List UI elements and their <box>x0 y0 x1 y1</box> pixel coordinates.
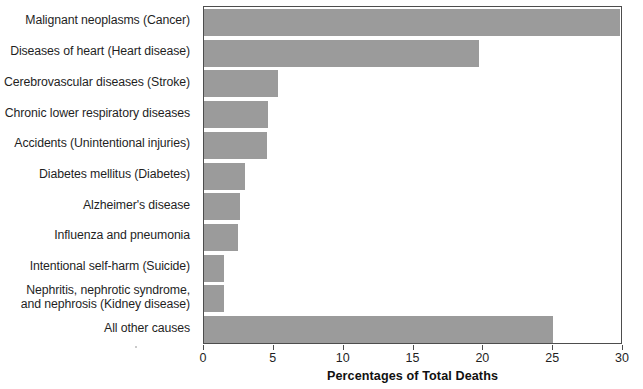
bar <box>204 193 240 220</box>
category-label: Influenza and pneumonia <box>54 228 190 242</box>
bar <box>204 101 268 128</box>
x-tick-label: 0 <box>200 351 207 365</box>
stray-mark <box>135 346 137 348</box>
category-label: Alzheimer's disease <box>83 198 190 212</box>
bar <box>204 132 267 159</box>
x-tick-label: 25 <box>545 351 559 365</box>
category-label: Cerebrovascular diseases (Stroke) <box>4 75 190 89</box>
x-tick-label: 15 <box>406 351 420 365</box>
x-tick-mark <box>273 345 274 350</box>
x-tick-label: 30 <box>615 351 629 365</box>
x-tick-mark <box>552 345 553 350</box>
bar <box>204 316 553 343</box>
category-label: Diseases of heart (Heart disease) <box>10 44 190 58</box>
bars-container <box>204 7 621 343</box>
x-tick-label: 5 <box>269 351 276 365</box>
x-tick-mark <box>343 345 344 350</box>
x-tick-mark <box>482 345 483 350</box>
category-label: Nephritis, nephrotic syndrome, and nephr… <box>21 283 190 311</box>
bar <box>204 70 278 97</box>
category-label: Diabetes mellitus (Diabetes) <box>39 167 190 181</box>
bar <box>204 285 224 312</box>
category-label: Malignant neoplasms (Cancer) <box>25 13 190 27</box>
bar <box>204 224 238 251</box>
x-tick-mark <box>413 345 414 350</box>
category-label: Accidents (Unintentional injuries) <box>14 136 190 150</box>
bar <box>204 163 245 190</box>
category-label: All other causes <box>104 321 190 335</box>
category-label: Chronic lower respiratory diseases <box>5 106 190 120</box>
bar-chart: Malignant neoplasms (Cancer)Diseases of … <box>0 0 643 389</box>
category-label-column: Malignant neoplasms (Cancer)Diseases of … <box>0 6 196 344</box>
x-tick-mark <box>203 345 204 350</box>
x-tick-label: 10 <box>336 351 350 365</box>
plot-area <box>203 6 622 344</box>
bar <box>204 255 224 282</box>
bar <box>204 40 479 67</box>
x-tick-label: 20 <box>475 351 489 365</box>
category-label: Intentional self-harm (Suicide) <box>30 259 190 273</box>
bar <box>204 9 620 36</box>
x-axis-title: Percentages of Total Deaths <box>203 369 622 383</box>
x-tick-mark <box>622 345 623 350</box>
